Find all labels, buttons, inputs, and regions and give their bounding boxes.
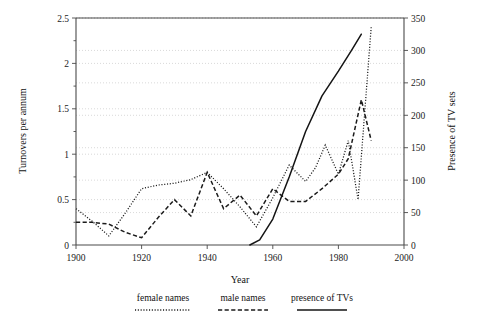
y-tick-label: 1.5 [57, 104, 69, 114]
axes-group [76, 18, 404, 245]
y2-tick-label: 200 [411, 111, 426, 121]
legend-label-male-names: male names [220, 293, 265, 303]
y2-tick-label: 250 [411, 78, 426, 88]
gridlines-group [76, 18, 404, 213]
y2-tick-label: 300 [411, 46, 426, 56]
y-tick-label: 0 [64, 241, 69, 251]
y-tick-label: 0.5 [57, 195, 69, 205]
x-tick-label: 1960 [263, 253, 282, 263]
y2-tick-label: 150 [411, 143, 426, 153]
y2-tick-label: 100 [411, 176, 426, 186]
x-tick-label: 2000 [395, 253, 414, 263]
y2-tick-label: 0 [411, 241, 416, 251]
y-tick-label: 2 [64, 59, 69, 69]
series-line-male-names [76, 100, 371, 238]
legend-label-presence-of-tvs: presence of TVs [291, 293, 353, 303]
y-tick-label: 2.5 [57, 14, 69, 24]
y-axis-title: Turnovers per annum [17, 88, 28, 174]
chart-svg: 19001920194019601980200000.511.522.50501… [0, 0, 481, 322]
ticks-group [72, 18, 408, 249]
x-tick-label: 1980 [329, 253, 348, 263]
x-tick-label: 1940 [198, 253, 217, 263]
y2-tick-label: 50 [411, 208, 421, 218]
x-tick-label: 1900 [67, 253, 86, 263]
chart-figure: 19001920194019601980200000.511.522.50501… [0, 0, 481, 322]
x-tick-label: 1920 [132, 253, 151, 263]
y2-axis-title: Presence of TV sets [446, 91, 457, 170]
x-axis-title: Year [231, 274, 250, 285]
series-line-presence-of-tvs [250, 34, 362, 245]
legend-group: female names male names presence of TVs [135, 293, 353, 310]
series-line-female-names [76, 27, 371, 236]
legend-label-female-names: female names [137, 293, 190, 303]
y2-tick-label: 350 [411, 14, 426, 24]
y-tick-label: 1 [64, 150, 69, 160]
